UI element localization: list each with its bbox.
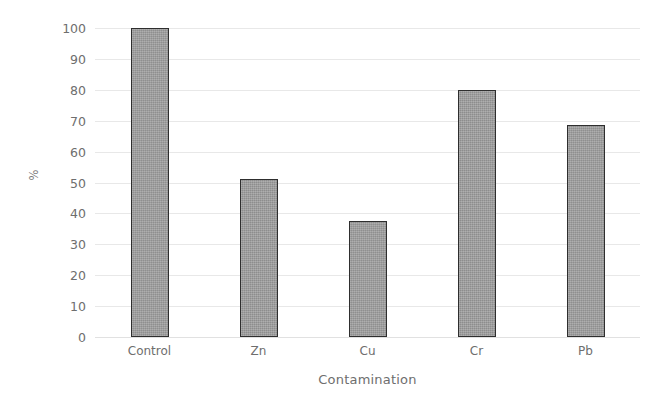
x-axis-tick-label: Cu bbox=[308, 344, 428, 358]
x-axis-tick-labels: ControlZnCuCrPb bbox=[95, 344, 640, 366]
y-axis-tick-label: 30 bbox=[38, 237, 86, 252]
bars-layer bbox=[95, 28, 640, 337]
x-axis-tick-label: Control bbox=[90, 344, 210, 358]
bar[interactable] bbox=[458, 90, 496, 337]
bar-slot bbox=[422, 28, 531, 337]
bar[interactable] bbox=[349, 221, 387, 337]
bar-slot bbox=[204, 28, 313, 337]
y-axis-tick-label: 80 bbox=[38, 82, 86, 97]
y-axis-tick-label: 10 bbox=[38, 299, 86, 314]
bar[interactable] bbox=[567, 125, 605, 337]
y-axis-tick-label: 100 bbox=[38, 21, 86, 36]
bar[interactable] bbox=[131, 28, 169, 337]
y-axis-tick-label: 20 bbox=[38, 268, 86, 283]
x-axis-title: Contamination bbox=[95, 372, 640, 387]
y-axis-tick-label: 60 bbox=[38, 144, 86, 159]
y-axis-tick-label: 50 bbox=[38, 175, 86, 190]
bar-slot bbox=[531, 28, 640, 337]
x-axis-tick-label: Pb bbox=[526, 344, 646, 358]
bar-chart: % 0102030405060708090100 ControlZnCuCrPb… bbox=[0, 0, 664, 415]
y-axis-tick-labels: 0102030405060708090100 bbox=[38, 28, 86, 337]
y-axis-tick-label: 90 bbox=[38, 51, 86, 66]
plot-area bbox=[95, 28, 640, 337]
x-axis-tick-label: Cr bbox=[417, 344, 537, 358]
bar-slot bbox=[313, 28, 422, 337]
bar[interactable] bbox=[240, 179, 278, 337]
y-axis-tick-label: 40 bbox=[38, 206, 86, 221]
x-axis-tick-label: Zn bbox=[199, 344, 319, 358]
gridline bbox=[95, 337, 640, 338]
y-axis-tick-label: 0 bbox=[38, 330, 86, 345]
bar-slot bbox=[95, 28, 204, 337]
y-axis-tick-label: 70 bbox=[38, 113, 86, 128]
